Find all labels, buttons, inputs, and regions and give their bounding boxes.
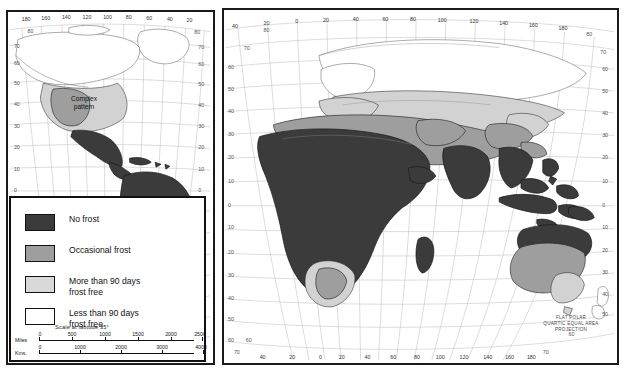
scale-kms-row: Kms. 0 1000 2000 3000 4000 — [15, 346, 198, 358]
svg-text:80: 80 — [194, 29, 200, 35]
svg-text:70: 70 — [234, 349, 240, 355]
svg-text:0: 0 — [602, 202, 605, 208]
svg-text:60: 60 — [228, 64, 234, 70]
svg-text:160: 160 — [529, 22, 538, 28]
svg-text:180: 180 — [22, 16, 31, 22]
svg-text:160: 160 — [505, 354, 514, 360]
svg-text:20: 20 — [323, 17, 329, 23]
svg-text:70: 70 — [244, 45, 250, 51]
svg-text:0: 0 — [295, 18, 298, 24]
projection-note: FLAT POLAR QUARTIC EQUAL AREA PROJECTION — [534, 315, 608, 333]
svg-text:60: 60 — [602, 66, 608, 72]
svg-text:40: 40 — [232, 23, 238, 29]
svg-text:50: 50 — [14, 80, 20, 86]
svg-text:0: 0 — [319, 354, 322, 360]
svg-text:140: 140 — [499, 20, 508, 26]
scale-kms-tick-3000: 3000 — [156, 344, 168, 350]
svg-text:10: 10 — [602, 178, 608, 184]
svg-text:40: 40 — [167, 16, 173, 22]
scale-miles-tick-2500: 2500 — [194, 331, 206, 337]
svg-text:20: 20 — [289, 354, 295, 360]
svg-text:70: 70 — [600, 49, 606, 55]
scale-miles-tick-2000: 2000 — [165, 331, 177, 337]
svg-text:0: 0 — [14, 187, 17, 193]
svg-text:0: 0 — [228, 202, 231, 208]
map-figure: 180160140 12010080 604020 80 706050 4030… — [0, 0, 625, 373]
svg-text:60: 60 — [382, 16, 388, 22]
scale-unit-kms: Kms. — [15, 350, 27, 356]
scale-kms-tick-4000: 4000 — [195, 344, 207, 350]
scale-bar-group: Scale at latitude 35° Miles 0 500 1000 1… — [11, 324, 204, 358]
svg-text:120: 120 — [83, 14, 92, 20]
svg-text:80: 80 — [264, 27, 270, 33]
svg-text:160: 160 — [41, 15, 50, 21]
svg-text:40: 40 — [353, 16, 359, 22]
svg-text:20: 20 — [339, 354, 345, 360]
svg-text:180: 180 — [559, 25, 568, 31]
svg-text:20: 20 — [228, 249, 234, 255]
svg-text:10: 10 — [602, 224, 608, 230]
scale-kms-bar — [39, 353, 194, 354]
svg-text:100: 100 — [438, 17, 447, 23]
scale-kms-tick-0: 0 — [39, 344, 42, 350]
legend-swatch-occasional-frost — [25, 245, 55, 262]
svg-text:20: 20 — [602, 247, 608, 253]
svg-text:100: 100 — [103, 14, 112, 20]
svg-text:60: 60 — [198, 61, 204, 67]
svg-text:60: 60 — [390, 354, 396, 360]
svg-text:20: 20 — [264, 20, 270, 26]
complex-pattern-label: Complex pattern — [71, 95, 97, 111]
svg-text:140: 140 — [62, 14, 71, 20]
svg-text:30: 30 — [228, 272, 234, 278]
svg-text:70: 70 — [14, 43, 20, 49]
svg-text:30: 30 — [14, 123, 20, 129]
svg-text:80: 80 — [28, 28, 34, 34]
svg-text:30: 30 — [198, 123, 204, 129]
svg-text:50: 50 — [228, 86, 234, 92]
eurasia-africa-panel: 40200 204060 80100120 140160180 80708070… — [222, 8, 619, 365]
svg-text:80: 80 — [414, 354, 420, 360]
svg-text:40: 40 — [14, 101, 20, 107]
svg-text:10: 10 — [14, 166, 20, 172]
svg-text:10: 10 — [228, 178, 234, 184]
svg-text:40: 40 — [602, 291, 608, 297]
legend-item-no-frost: No frost — [25, 214, 99, 231]
scale-unit-miles: Miles — [15, 337, 27, 343]
scale-miles-tick-1500: 1500 — [132, 331, 144, 337]
svg-text:60: 60 — [14, 60, 20, 66]
svg-text:180: 180 — [527, 354, 536, 360]
svg-text:0: 0 — [198, 187, 201, 193]
svg-text:40: 40 — [260, 354, 266, 360]
svg-text:120: 120 — [460, 354, 469, 360]
svg-text:20: 20 — [14, 144, 20, 150]
svg-text:20: 20 — [228, 154, 234, 160]
svg-text:20: 20 — [602, 154, 608, 160]
svg-text:40: 40 — [228, 108, 234, 114]
legend-box: No frost Occasional frost More than 90 d… — [9, 196, 206, 362]
svg-text:60: 60 — [228, 337, 234, 343]
scale-miles-tick-0: 0 — [39, 331, 42, 337]
svg-text:50: 50 — [198, 81, 204, 87]
svg-text:80: 80 — [586, 31, 592, 37]
svg-text:60: 60 — [146, 15, 152, 21]
svg-text:40: 40 — [228, 295, 234, 301]
svg-text:50: 50 — [602, 88, 608, 94]
svg-text:40: 40 — [198, 102, 204, 108]
svg-text:80: 80 — [410, 16, 416, 22]
legend-swatch-no-frost — [25, 214, 55, 231]
legend-label-no-frost: No frost — [69, 214, 99, 225]
svg-text:30: 30 — [602, 132, 608, 138]
legend-label-more-90-days: More than 90 days frost free — [69, 276, 140, 297]
scale-miles-row: Miles 0 500 1000 1500 2000 2500 — [15, 333, 198, 345]
legend-item-occasional-frost: Occasional frost — [25, 245, 131, 262]
svg-text:60: 60 — [246, 337, 252, 343]
eurasia-graticule-labels: 40200 204060 80100120 140160180 80708070… — [224, 10, 617, 363]
svg-text:30: 30 — [602, 269, 608, 275]
scale-miles-tick-1000: 1000 — [99, 331, 111, 337]
svg-text:50: 50 — [228, 316, 234, 322]
svg-text:140: 140 — [483, 354, 492, 360]
svg-text:70: 70 — [198, 44, 204, 50]
svg-text:70: 70 — [543, 349, 549, 355]
scale-title: Scale at latitude 35° — [55, 324, 109, 330]
svg-text:100: 100 — [436, 354, 445, 360]
